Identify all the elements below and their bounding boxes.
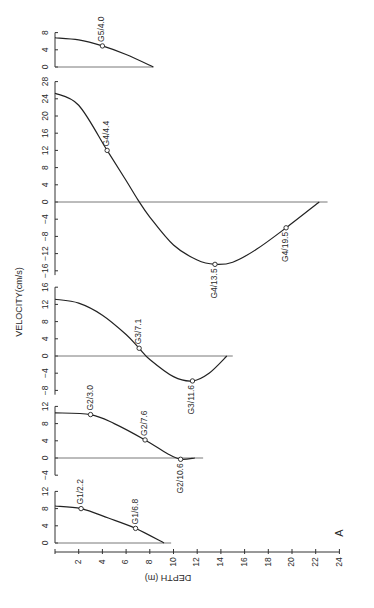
sample-point-label: G4/13.5 <box>209 268 219 299</box>
velocity-tick-label: 24 <box>40 94 50 104</box>
velocity-tick-label: 8 <box>40 30 50 35</box>
sample-point-marker <box>137 346 141 350</box>
velocity-profile-curve <box>55 506 164 543</box>
depth-tick-label: 24 <box>334 557 344 567</box>
velocity-tick-label: −4 <box>40 470 50 480</box>
sample-point-label: G3/11.6 <box>186 385 196 415</box>
depth-tick-label: 6 <box>120 559 130 564</box>
sample-point-marker <box>213 262 217 266</box>
velocity-tick-label: 20 <box>40 111 50 121</box>
sample-point-label: G3/7.1 <box>133 318 143 344</box>
velocity-tick-label: −16 <box>40 263 50 278</box>
panel-g4: −16−12−8−40481216202428G4/4.4G4/13.5G4/1… <box>40 77 327 299</box>
depth-tick-label: 18 <box>263 557 273 567</box>
sample-point-label: G1/2.2 <box>75 479 85 505</box>
velocity-tick-label: 8 <box>40 319 50 324</box>
velocity-tick-label: −4 <box>40 368 50 378</box>
sample-point-marker <box>100 44 104 48</box>
depth-tick-label: 14 <box>215 557 225 567</box>
sample-point-marker <box>190 379 194 383</box>
velocity-tick-label: 12 <box>40 299 50 309</box>
sample-point-label: G4/19.5 <box>280 232 290 263</box>
velocity-tick-label: 0 <box>40 455 50 460</box>
sample-point-marker <box>79 506 83 510</box>
velocity-tick-label: 0 <box>40 353 50 358</box>
velocity-tick-label: 12 <box>40 486 50 496</box>
velocity-tick-label: 28 <box>40 77 50 87</box>
panel-g1: 04812G1/2.2G1/6.8 <box>40 479 171 546</box>
depth-tick-label: 10 <box>168 557 178 567</box>
velocity-tick-label: 16 <box>40 128 50 138</box>
sample-point-label: G2/7.6 <box>139 410 149 436</box>
depth-tick-label: 16 <box>239 557 249 567</box>
velocity-tick-label: 4 <box>40 47 50 52</box>
depth-tick-label: 12 <box>191 557 201 567</box>
velocity-tick-label: −4 <box>40 214 50 224</box>
velocity-tick-label: −12 <box>40 246 50 261</box>
panel-g3: −8−40481216G3/7.1G3/11.6 <box>40 282 233 414</box>
depth-tick-label: 8 <box>144 559 154 564</box>
velocity-tick-label: 8 <box>40 421 50 426</box>
velocity-axis-label: VELOCITY(cm/s) <box>14 267 24 337</box>
velocity-tick-label: 12 <box>40 145 50 155</box>
depth-axis: 24681012141618202224 <box>55 549 344 567</box>
velocity-tick-label: 16 <box>40 282 50 292</box>
velocity-profile-curve <box>55 413 195 460</box>
panel-letter: A <box>333 529 345 537</box>
sample-point-marker <box>143 438 147 442</box>
panel-g2: −404812G2/3.0G2/7.6G2/10.6 <box>40 385 203 494</box>
velocity-tick-label: 4 <box>40 336 50 341</box>
panel-g5: 048G5/4.0 <box>40 16 153 69</box>
sample-point-marker <box>105 148 109 152</box>
velocity-tick-label: 4 <box>40 182 50 187</box>
velocity-tick-label: −8 <box>40 385 50 395</box>
velocity-tick-label: 8 <box>40 165 50 170</box>
sample-point-marker <box>88 412 92 416</box>
sample-point-label: G2/10.6 <box>175 463 185 494</box>
velocity-tick-label: 0 <box>40 199 50 204</box>
sample-point-marker <box>133 526 137 530</box>
sample-point-marker <box>178 457 182 461</box>
velocity-tick-label: 12 <box>40 401 50 411</box>
depth-tick-label: 4 <box>97 559 107 564</box>
velocity-depth-figure: 048G5/4.0−16−12−8−40481216202428G4/4.4G4… <box>0 0 374 608</box>
velocity-tick-label: −8 <box>40 231 50 241</box>
velocity-tick-label: 4 <box>40 523 50 528</box>
depth-axis-label: DEPTH (m) <box>145 573 192 583</box>
velocity-tick-label: 0 <box>40 64 50 69</box>
velocity-tick-label: 8 <box>40 506 50 511</box>
depth-tick-label: 22 <box>310 557 320 567</box>
depth-tick-label: 20 <box>286 557 296 567</box>
sample-point-label: G5/4.0 <box>96 16 106 42</box>
sample-point-label: G2/3.0 <box>85 385 95 411</box>
depth-tick-label: 2 <box>73 559 83 564</box>
velocity-tick-label: 0 <box>40 540 50 545</box>
sample-point-marker <box>284 226 288 230</box>
panels-group: 048G5/4.0−16−12−8−40481216202428G4/4.4G4… <box>40 16 327 545</box>
velocity-tick-label: 4 <box>40 438 50 443</box>
sample-point-label: G1/6.8 <box>130 499 140 525</box>
sample-point-label: G4/4.4 <box>101 121 111 147</box>
chart-canvas: 048G5/4.0−16−12−8−40481216202428G4/4.4G4… <box>0 0 374 608</box>
